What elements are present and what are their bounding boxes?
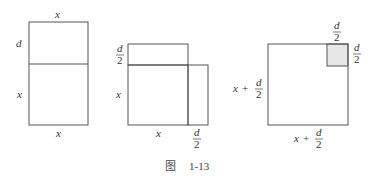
figure-canvas: x d x x d 2 x x d 2 d 2 d 2 x + d 2 x — [0, 0, 373, 183]
panel-1-top-label: x — [54, 8, 60, 20]
panel-2-left-lower-label: x — [115, 88, 121, 100]
panel-1-outer-rect — [29, 22, 88, 125]
panel-2-bottom-right-num: d — [194, 126, 200, 138]
panel-3-bottom-den: 2 — [316, 138, 322, 150]
panel-3-top-num: d — [334, 19, 340, 31]
panel-2: d 2 x x d 2 — [115, 42, 208, 150]
panel-3-bottom-num: d — [316, 126, 322, 138]
figure-caption: 图 1-13 — [165, 160, 210, 172]
panel-2-left-upper-den: 2 — [117, 54, 123, 66]
panel-2-top-strip — [128, 44, 188, 65]
caption-number: 1-13 — [189, 160, 210, 172]
panel-3-left-num: d — [256, 76, 262, 88]
panel-3-left-x: x — [232, 82, 238, 94]
panel-2-square — [128, 65, 188, 125]
panel-1: x d x x — [16, 8, 88, 139]
panel-1-left-lower-label: x — [16, 88, 22, 100]
panel-3-shaded-corner — [327, 44, 348, 66]
panel-2-right-strip — [188, 65, 208, 125]
panel-3-bottom-plus: + — [303, 132, 309, 144]
panel-2-bottom-label: x — [155, 127, 161, 139]
panel-3: d 2 d 2 x + d 2 x + d 2 — [232, 19, 361, 150]
panel-3-left-den: 2 — [256, 88, 262, 100]
panel-2-bottom-right-den: 2 — [194, 138, 200, 150]
panel-2-left-upper-num: d — [117, 42, 123, 54]
panel-1-left-upper-label: d — [16, 37, 22, 49]
panel-3-bottom-x: x — [293, 132, 299, 144]
panel-3-right-num: d — [354, 41, 360, 53]
caption-prefix: 图 — [165, 160, 176, 172]
panel-3-left-plus: + — [242, 82, 248, 94]
panel-3-top-den: 2 — [334, 31, 340, 43]
panel-3-right-den: 2 — [354, 53, 360, 65]
panel-1-bottom-label: x — [55, 127, 61, 139]
